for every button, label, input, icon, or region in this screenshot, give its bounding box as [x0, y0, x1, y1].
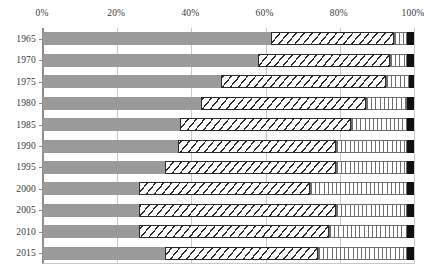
bar-segment-segment-4[interactable] — [409, 75, 414, 88]
bar-row[interactable] — [43, 247, 414, 260]
y-axis-tick-labels: 1965197019751980198519901995200020052010… — [0, 28, 40, 264]
bar-row[interactable] — [43, 182, 414, 195]
bar-segment-segment-2[interactable] — [139, 204, 336, 217]
bar-segment-segment-3[interactable] — [394, 32, 408, 45]
y-tick-label: 1995 — [16, 162, 36, 172]
x-tick-label: 100% — [402, 8, 424, 18]
bar-segment-segment-3[interactable] — [310, 182, 407, 195]
bar-segment-segment-1[interactable] — [43, 75, 221, 88]
x-tick-label: 40% — [181, 8, 199, 18]
y-tick-label: 1975 — [16, 77, 36, 87]
x-tick-label: 80% — [330, 8, 348, 18]
bar-segment-segment-4[interactable] — [407, 97, 414, 110]
y-tick-label: 2000 — [16, 184, 36, 194]
y-tick-label: 2015 — [16, 248, 36, 258]
bar-segment-segment-4[interactable] — [407, 204, 414, 217]
bar-segment-segment-1[interactable] — [43, 118, 180, 131]
bar-segment-segment-1[interactable] — [43, 54, 258, 67]
bar-segment-segment-4[interactable] — [407, 54, 414, 67]
bar-segment-segment-2[interactable] — [178, 140, 336, 153]
bar-segment-segment-3[interactable] — [390, 54, 407, 67]
bar-segment-segment-1[interactable] — [43, 204, 139, 217]
bar-segment-segment-2[interactable] — [165, 161, 336, 174]
bar-row[interactable] — [43, 97, 414, 110]
x-axis-tick-labels: 0%20%40%60%80%100% — [0, 8, 420, 22]
bar-segment-segment-4[interactable] — [407, 182, 414, 195]
bar-row[interactable] — [43, 75, 414, 88]
bar-segment-segment-1[interactable] — [43, 97, 201, 110]
bar-segment-segment-4[interactable] — [407, 32, 414, 45]
y-tick-label: 2010 — [16, 227, 36, 237]
bar-segment-segment-2[interactable] — [258, 54, 390, 67]
bar-row[interactable] — [43, 204, 414, 217]
bar-segment-segment-1[interactable] — [43, 225, 139, 238]
bar-segment-segment-2[interactable] — [271, 32, 393, 45]
bar-row[interactable] — [43, 140, 414, 153]
bar-segment-segment-3[interactable] — [336, 204, 407, 217]
bar-segment-segment-2[interactable] — [139, 225, 328, 238]
bar-segment-segment-4[interactable] — [407, 247, 414, 260]
y-tick-label: 1990 — [16, 141, 36, 151]
bar-segment-segment-2[interactable] — [180, 118, 351, 131]
bar-segment-segment-4[interactable] — [407, 118, 414, 131]
bar-row[interactable] — [43, 225, 414, 238]
bar-segment-segment-2[interactable] — [165, 247, 317, 260]
bar-segment-segment-3[interactable] — [318, 247, 408, 260]
y-tick-label: 2005 — [16, 205, 36, 215]
bar-row[interactable] — [43, 161, 414, 174]
y-tick-label: 1985 — [16, 120, 36, 130]
plot-area — [42, 28, 414, 264]
bar-segment-segment-1[interactable] — [43, 182, 139, 195]
x-tick-label: 0% — [35, 8, 48, 18]
plot-bottom-border — [43, 263, 414, 264]
bar-segment-segment-3[interactable] — [336, 161, 407, 174]
bar-segment-segment-4[interactable] — [407, 140, 414, 153]
bar-segment-segment-3[interactable] — [366, 97, 408, 110]
bar-segment-segment-1[interactable] — [43, 32, 271, 45]
bar-segment-segment-1[interactable] — [43, 140, 178, 153]
bar-row[interactable] — [43, 32, 414, 45]
y-tick-label: 1980 — [16, 98, 36, 108]
bar-segment-segment-2[interactable] — [221, 75, 386, 88]
bar-segment-segment-2[interactable] — [201, 97, 366, 110]
bar-row[interactable] — [43, 118, 414, 131]
bar-segment-segment-3[interactable] — [336, 140, 407, 153]
bar-segment-segment-4[interactable] — [407, 225, 414, 238]
bar-segment-segment-4[interactable] — [407, 161, 414, 174]
gridline — [414, 28, 415, 264]
y-tick-label: 1965 — [16, 34, 36, 44]
x-tick-label: 60% — [256, 8, 274, 18]
bar-segment-segment-3[interactable] — [351, 118, 407, 131]
bar-segment-segment-3[interactable] — [329, 225, 408, 238]
bar-row[interactable] — [43, 54, 414, 67]
bar-segment-segment-2[interactable] — [139, 182, 310, 195]
bar-segment-segment-3[interactable] — [386, 75, 409, 88]
x-tick-label: 20% — [107, 8, 125, 18]
bar-segment-segment-1[interactable] — [43, 247, 165, 260]
y-tick-label: 1970 — [16, 55, 36, 65]
bar-segment-segment-1[interactable] — [43, 161, 165, 174]
